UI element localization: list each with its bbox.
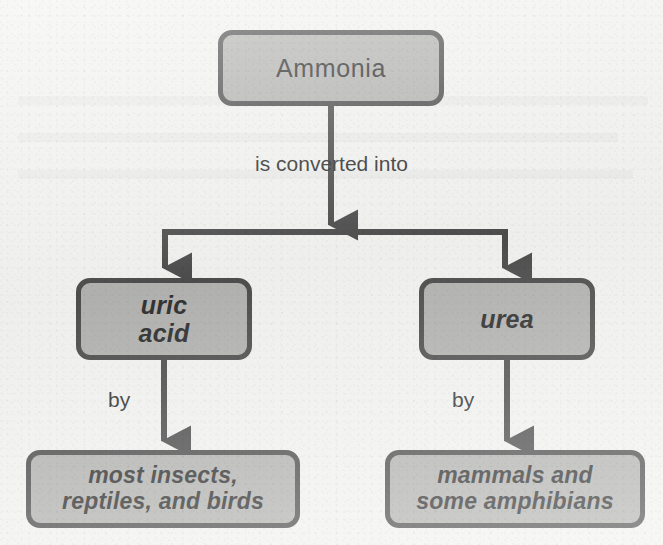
edge-label-by-left: by: [108, 388, 130, 412]
node-uricotelic-animals[interactable]: most insects, reptiles, and birds: [26, 450, 300, 528]
node-uricotelic-animals-line-1: most insects,: [88, 462, 238, 488]
node-urea[interactable]: urea: [419, 278, 595, 360]
node-ureotelic-animals-line-1: mammals and: [437, 462, 593, 488]
node-uric-acid-label: uric acid: [139, 291, 190, 347]
node-ammonia[interactable]: Ammonia: [218, 30, 444, 106]
node-uricotelic-animals-line-2: reptiles, and birds: [62, 488, 264, 514]
edge-label-is-converted-into: is converted into: [0, 152, 663, 176]
node-ammonia-label: Ammonia: [276, 54, 386, 82]
node-ureotelic-animals-label: mammals and some amphibians: [416, 463, 613, 515]
edge-label-by-right: by: [452, 388, 474, 412]
node-uric-acid-line-1: uric: [141, 291, 188, 319]
node-urea-label: urea: [480, 305, 534, 333]
node-ureotelic-animals-line-2: some amphibians: [416, 488, 613, 514]
node-uric-acid[interactable]: uric acid: [76, 278, 252, 360]
node-uric-acid-line-2: acid: [139, 319, 190, 347]
node-uricotelic-animals-label: most insects, reptiles, and birds: [62, 463, 264, 515]
node-ureotelic-animals[interactable]: mammals and some amphibians: [385, 450, 645, 528]
